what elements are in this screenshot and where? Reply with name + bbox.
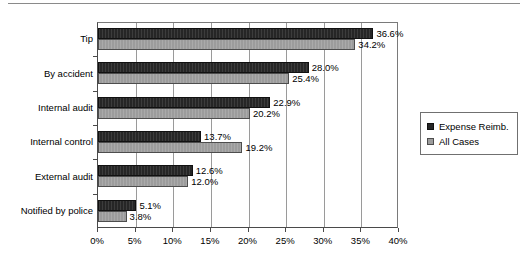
category-axis-tick [93,125,97,126]
category-label: Internal audit [0,103,93,113]
value-axis-tick [323,228,324,232]
value-axis-label: 15% [190,235,230,246]
legend-label: Expense Reimb. [439,121,509,132]
bar-group: 22.9%20.2% [98,92,397,126]
value-axis-tick [135,228,136,232]
category-axis-tick [93,194,97,195]
bar-value-label: 19.2% [245,142,272,153]
bar-value-label: 13.7% [204,131,231,142]
value-axis-label: 10% [152,235,192,246]
bar [98,73,289,84]
bar [98,211,127,222]
value-axis-tick [172,228,173,232]
value-axis-label: 20% [228,235,268,246]
bar-value-label: 34.2% [358,39,385,50]
bar-value-label: 36.6% [376,28,403,39]
value-axis-tick [210,228,211,232]
value-axis-tick [360,228,361,232]
value-axis-label: 30% [303,235,343,246]
legend-item: All Cases [427,134,512,148]
bar [98,131,201,142]
bar-value-label: 25.4% [292,73,319,84]
bar-value-label: 12.0% [191,176,218,187]
legend-item: Expense Reimb. [427,119,512,133]
bar-value-label: 5.1% [139,200,161,211]
value-axis-label: 35% [340,235,380,246]
bar-value-label: 20.2% [253,108,280,119]
bar-value-label: 28.0% [312,62,339,73]
value-axis-label: 5% [115,235,155,246]
bar [98,28,373,39]
category-label: Internal control [0,137,93,147]
bar [98,142,242,153]
bar-group: 12.6%12.0% [98,160,397,194]
category-axis: TipBy accidentInternal auditInternal con… [0,22,93,228]
bar [98,97,270,108]
grouped-bar-chart: TipBy accidentInternal auditInternal con… [0,0,528,276]
bar [98,176,188,187]
value-axis-label: 0% [77,235,117,246]
bar [98,39,355,50]
bar-group: 28.0%25.4% [98,57,397,91]
plot-area: 36.6%34.2%28.0%25.4%22.9%20.2%13.7%19.2%… [97,22,398,228]
category-axis-tick [93,91,97,92]
chart-legend: Expense Reimb.All Cases [420,112,518,155]
legend-swatch-icon [427,123,434,130]
bar-group: 5.1%3.8% [98,195,397,229]
value-axis-tick [398,228,399,232]
bar [98,165,193,176]
category-axis-tick [93,159,97,160]
bar-value-label: 22.9% [273,97,300,108]
bar-value-label: 3.8% [130,211,152,222]
category-label: Tip [0,34,93,44]
category-label: External audit [0,172,93,182]
bar [98,108,250,119]
bar [98,62,309,73]
value-axis-tick [285,228,286,232]
legend-label: All Cases [439,136,479,147]
bar-value-label: 12.6% [196,165,223,176]
category-axis-tick [93,56,97,57]
value-axis-label: 25% [265,235,305,246]
value-axis-tick [248,228,249,232]
category-label: By accident [0,69,93,79]
value-axis-tick [97,228,98,232]
bar-group: 36.6%34.2% [98,23,397,57]
category-label: Notified by police [0,206,93,216]
bar-group: 13.7%19.2% [98,126,397,160]
value-axis-label: 40% [378,235,418,246]
bar [98,200,136,211]
legend-swatch-icon [427,138,434,145]
